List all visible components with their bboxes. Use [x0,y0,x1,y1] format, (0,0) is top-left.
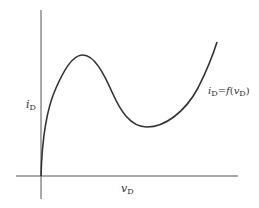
y-axis-label: iD [26,99,36,112]
negative-resistance-curve [41,42,217,176]
x-axis-label: vD [121,183,134,196]
diagram-canvas: iD vD iD=f(vD) [0,0,259,208]
iv-plot [0,0,259,208]
curve-equation-label: iD=f(vD) [208,86,250,98]
